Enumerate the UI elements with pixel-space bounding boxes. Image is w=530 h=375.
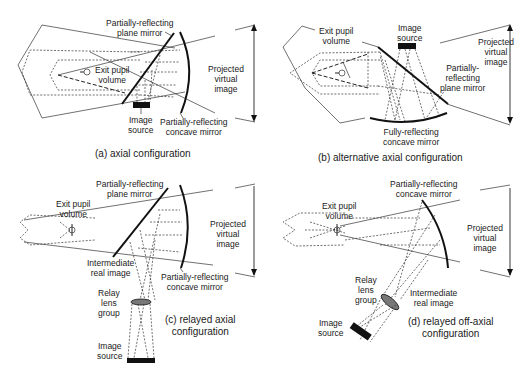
- relay-lens-d: [379, 292, 401, 312]
- label-d-virtual-image: Projectedvirtualimage: [467, 223, 503, 253]
- image-source-a: [133, 102, 150, 108]
- label-d-relay: Relaylensgroup: [355, 275, 377, 305]
- label-c-virtual-image: Projectedvirtualimage: [210, 219, 246, 249]
- label-c-image-source: Imagesource: [97, 341, 123, 361]
- label-c-concave-mirror: Partially-reflectingconcave mirror: [161, 272, 229, 292]
- label-c-intermediate: Intermediatereal image: [87, 258, 134, 278]
- label-b-concave-mirror: Fully-reflectingconcave mirror: [383, 127, 439, 147]
- caption-d: (d) relayed off-axialconfiguration: [408, 316, 493, 340]
- label-c-exit-pupil: Exit pupilvolume: [56, 199, 91, 219]
- label-d-concave-mirror: Partially-reflectingconcave mirror: [390, 179, 458, 199]
- label-d-exit-pupil: Exit pupilvolume: [322, 201, 357, 221]
- caption-c: (c) relayed axialconfiguration: [165, 314, 236, 338]
- relay-lens-c: [131, 299, 151, 305]
- label-a-plane-mirror: Partially-reflectingplane mirror: [106, 18, 174, 38]
- label-c-plane-mirror: Partially-reflectingplane mirror: [96, 179, 164, 199]
- label-b-exit-pupil: Exit pupilvolume: [319, 26, 354, 46]
- label-d-image-source: Imagesource: [318, 318, 344, 338]
- caption-a: (a) axial configuration: [95, 148, 191, 160]
- caption-b: (b) alternative axial configuration: [318, 152, 463, 164]
- label-c-relay: Relaylensgroup: [98, 288, 120, 318]
- label-d-intermediate: Intermediatereal image: [410, 288, 457, 308]
- label-a-exit-pupil: Exit pupilvolume: [95, 65, 130, 85]
- label-a-image-source: Imagesource: [128, 115, 154, 135]
- label-b-image-source: Imagesource: [397, 23, 423, 43]
- label-b-plane-mirror: Partially-reflectingplane mirror: [440, 63, 485, 93]
- image-source-c: [127, 358, 155, 363]
- label-a-virtual-image: Projectedvirtualimage: [208, 64, 244, 94]
- label-a-concave-mirror: Partially-reflectingconcave mirror: [160, 117, 228, 137]
- image-source-b: [398, 43, 416, 49]
